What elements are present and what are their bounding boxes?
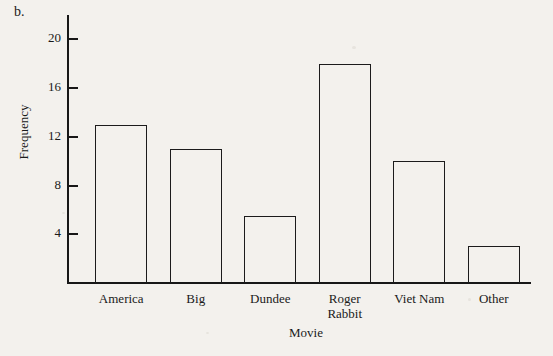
y-axis-line <box>67 15 69 284</box>
y-tick-mark <box>69 233 78 235</box>
y-tick-label: 8 <box>31 177 61 193</box>
y-tick-mark <box>69 87 78 89</box>
x-axis-title: Movie <box>258 325 354 341</box>
y-tick-mark <box>69 38 78 40</box>
y-axis-title: Frequency <box>16 86 32 178</box>
bar <box>393 161 445 283</box>
y-tick-label: 16 <box>31 79 61 95</box>
plot-area: 48121620 AmericaBigDundeeRoger RabbitVie… <box>0 0 553 356</box>
y-tick-label: 20 <box>31 30 61 46</box>
category-label: Other <box>444 291 544 306</box>
y-tick-label: 12 <box>31 128 61 144</box>
bar <box>170 149 222 283</box>
y-tick-mark <box>69 136 78 138</box>
bar <box>468 246 520 283</box>
bar <box>319 64 371 283</box>
bar-chart-figure: b. 48121620 AmericaBigDundeeRoger Rabbit… <box>0 0 553 356</box>
bar <box>244 216 296 283</box>
y-tick-mark <box>69 185 78 187</box>
y-tick-label: 4 <box>31 225 61 241</box>
bar <box>95 125 147 283</box>
